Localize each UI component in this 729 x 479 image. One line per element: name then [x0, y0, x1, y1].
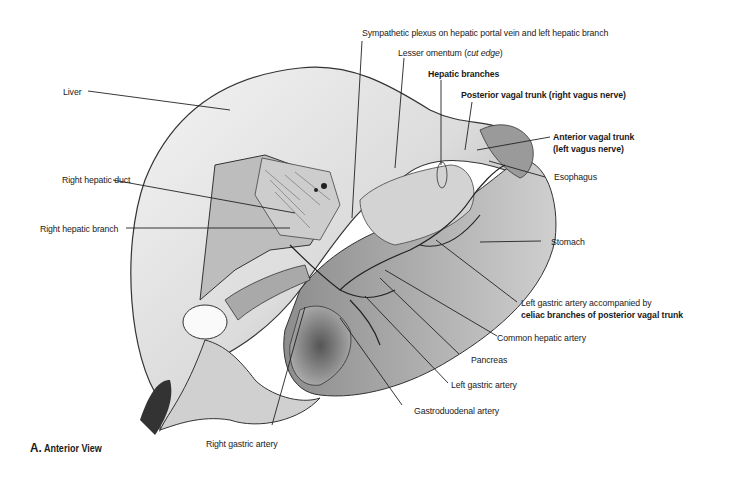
label-left-gastric-artery: Left gastric artery	[451, 379, 517, 390]
label-sympathetic-plexus: Sympathetic plexus on hepatic portal vei…	[362, 27, 608, 38]
caption-letter: A.	[30, 440, 42, 455]
label-gastroduodenal-artery: Gastroduodenal artery	[414, 405, 499, 416]
anatomical-illustration	[0, 0, 729, 479]
label-right-gastric-artery: Right gastric artery	[206, 438, 278, 449]
label-common-hepatic-artery: Common hepatic artery	[497, 332, 586, 343]
label-lesser-omentum: Lesser omentum (cut edge)	[398, 47, 503, 58]
label-posterior-vagal-trunk: Posterior vagal trunk (right vagus nerve…	[461, 89, 626, 100]
label-right-hepatic-duct: Right hepatic duct	[62, 174, 130, 185]
caption-text: Anterior View	[44, 443, 102, 454]
label-stomach: Stomach	[551, 236, 585, 247]
label-hepatic-branches: Hepatic branches	[428, 68, 499, 79]
label-celiac-branches: celiac branches of posterior vagal trunk	[521, 309, 683, 320]
figure-caption: A. Anterior View	[30, 440, 102, 455]
label-anterior-vagal-trunk: Anterior vagal trunk	[553, 131, 634, 142]
label-liver: Liver	[63, 86, 81, 97]
label-pancreas: Pancreas	[471, 354, 507, 365]
label-right-hepatic-branch: Right hepatic branch	[40, 223, 118, 234]
label-esophagus: Esophagus	[554, 171, 597, 182]
label-left-gastric-accompanied: Left gastric artery accompanied by	[521, 297, 651, 308]
label-left-vagus-nerve: (left vagus nerve)	[553, 143, 624, 154]
